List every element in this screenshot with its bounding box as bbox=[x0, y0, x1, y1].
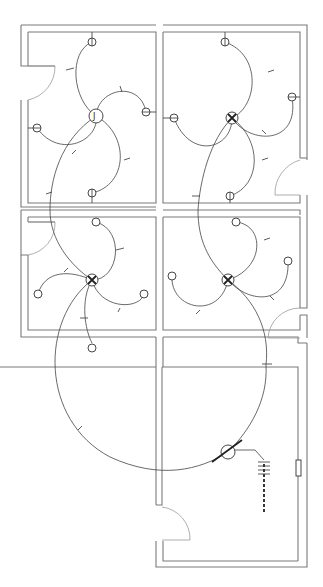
switch-hub-icon bbox=[86, 112, 238, 286]
svg-text:J: J bbox=[92, 112, 95, 121]
door-top-left bbox=[28, 66, 55, 100]
light-fixture-icon bbox=[28, 32, 300, 352]
junction-box: J bbox=[89, 109, 103, 123]
walls bbox=[0, 25, 307, 567]
wire-tick-marks bbox=[46, 68, 274, 430]
door-bottom bbox=[162, 507, 190, 540]
fixtures: J bbox=[28, 32, 301, 514]
door-middle-right bbox=[268, 308, 300, 338]
wall-middle-right bbox=[163, 210, 307, 338]
wiring bbox=[37, 42, 293, 470]
wall-top-left bbox=[21, 25, 156, 207]
wall-middle-left bbox=[21, 210, 156, 337]
door-top-right bbox=[275, 160, 300, 195]
door-middle-left bbox=[28, 222, 55, 255]
floor-plan-diagram: J bbox=[0, 0, 323, 587]
doors bbox=[28, 66, 300, 540]
